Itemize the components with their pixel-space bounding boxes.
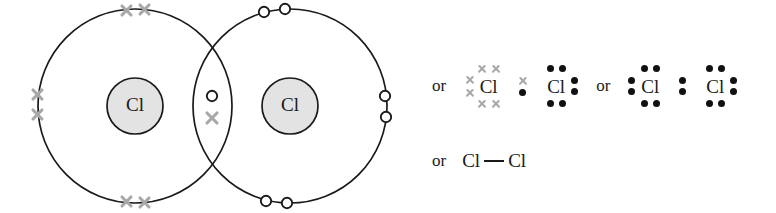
venn-svg: Cl Cl: [0, 0, 420, 213]
structural-formula-row: or Cl Cl: [432, 150, 526, 172]
right-atom-bottom-pair: [547, 100, 566, 107]
left-atom-left-pair: [465, 75, 474, 97]
dot-cross-right-atom-symbol: Cl: [545, 77, 567, 96]
right-atom-right-pair: [571, 77, 578, 95]
electron-cross-icon: [518, 76, 527, 85]
all-dot-right-atom-symbol: Cl: [704, 77, 726, 96]
electron-dot-icon: [718, 100, 725, 107]
all-dot-right-atom: Cl: [689, 62, 741, 110]
electron-dot-icon: [641, 65, 648, 72]
left-nucleus-label: Cl: [126, 94, 144, 115]
right-atom-top-pair: [706, 65, 725, 72]
left-shell-top-pair: [122, 5, 149, 15]
right-nucleus-label: Cl: [281, 94, 299, 115]
dot-cross-bond-pair: [515, 76, 530, 96]
electron-dot-icon: [718, 65, 725, 72]
electron-cross-icon: [465, 75, 474, 84]
dot-cross-left-atom-symbol: Cl: [478, 77, 500, 96]
left-atom-bottom-pair: [641, 100, 660, 107]
electron-dot-icon: [559, 100, 566, 107]
electron-dot-icon: [679, 88, 686, 95]
dot-cross-right-atom: Cl: [530, 62, 582, 110]
electron-dot-icon: [559, 65, 566, 72]
alternative-representations: or Cl: [420, 0, 776, 213]
all-dot-bond-pair: [676, 77, 689, 95]
electron-dot-icon: [628, 77, 635, 84]
electron-dot-icon: [641, 100, 648, 107]
electron-dot-icon: [547, 65, 554, 72]
electron-cross-icon: [477, 64, 486, 73]
cl2-bonding-figure: Cl Cl: [0, 0, 776, 213]
or-label-first: or: [432, 76, 446, 96]
structural-formula-left-symbol: Cl: [462, 150, 480, 172]
shared-pair-cross: [207, 113, 217, 123]
electron-dot-icon: [706, 100, 713, 107]
electron-dot-icon: [653, 65, 660, 72]
electron-cross-icon: [465, 88, 474, 97]
electron-dot-icon: [730, 88, 737, 95]
left-atom-bottom-pair: [477, 99, 500, 108]
dot-cross-left-atom: Cl: [462, 62, 515, 110]
electron-dot-icon: [653, 100, 660, 107]
dot-cross-lewis-structure: Cl Cl: [462, 62, 582, 110]
electron-cross-icon: [491, 64, 500, 73]
shared-pair-open-circle: [207, 91, 217, 101]
structural-formula-right-symbol: Cl: [508, 150, 526, 172]
electron-cross-icon: [477, 99, 486, 108]
electron-dot-icon: [730, 77, 737, 84]
left-atom-top-pair: [641, 65, 660, 72]
all-dot-left-atom: Cl: [624, 62, 676, 110]
or-label-third: or: [432, 151, 446, 171]
all-dot-left-atom-symbol: Cl: [639, 77, 661, 96]
overlapping-shells-diagram: Cl Cl: [0, 0, 420, 213]
electron-dot-icon: [571, 88, 578, 95]
right-atom-top-pair: [547, 65, 566, 72]
electron-cross-icon: [491, 99, 500, 108]
right-atom-bottom-pair: [706, 100, 725, 107]
right-shell-right-pair: [380, 91, 391, 122]
left-atom-top-pair: [477, 64, 500, 73]
structural-formula: Cl Cl: [462, 150, 526, 172]
electron-dot-icon: [519, 89, 526, 96]
electron-dot-icon: [571, 77, 578, 84]
left-atom-left-pair: [628, 77, 635, 95]
electron-dot-icon: [547, 100, 554, 107]
shared-bonding-pair: [207, 91, 217, 123]
electron-dot-icon: [628, 88, 635, 95]
all-dot-lewis-structure: Cl Cl: [624, 62, 741, 110]
single-bond-line: [484, 160, 504, 162]
right-atom-right-pair: [730, 77, 737, 95]
or-label-second: or: [596, 76, 610, 96]
electron-dot-icon: [679, 77, 686, 84]
electron-dot-icon: [706, 65, 713, 72]
lewis-structures-row: or Cl: [432, 62, 741, 110]
left-shell-bottom-pair: [122, 197, 149, 207]
